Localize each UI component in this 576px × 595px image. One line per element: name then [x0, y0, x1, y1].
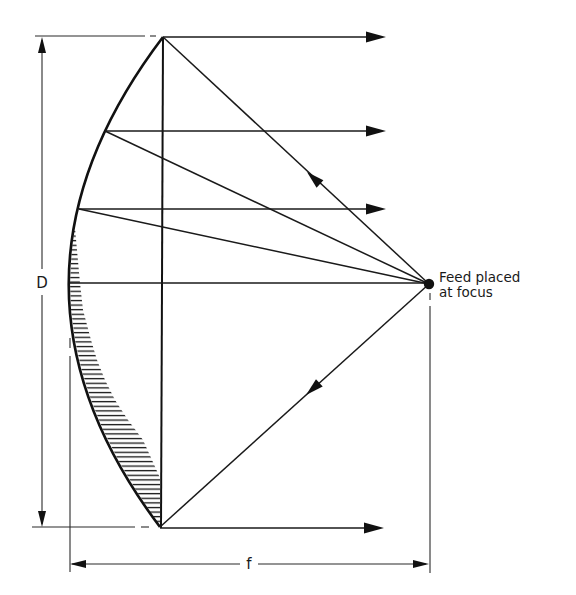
feed-label-line2: at focus — [439, 284, 493, 300]
focal-length-label: f — [246, 555, 252, 573]
feed-dot-icon — [424, 279, 434, 289]
arrow-right-icon — [364, 523, 384, 534]
parabolic-reflector-diagram: D f Feed placed at focus — [0, 0, 576, 595]
arrow-up-icon — [38, 37, 46, 53]
arrow-right-icon — [366, 204, 386, 215]
arrow-right-icon — [366, 126, 386, 137]
arrow-left-icon — [70, 560, 86, 568]
arrow-down-icon — [38, 511, 46, 527]
arrow-right-icon — [366, 32, 386, 43]
ray-arrow-up-left-icon — [307, 172, 323, 188]
feed-label-line1: Feed placed — [439, 269, 520, 285]
aperture-label: D — [36, 274, 48, 292]
arrow-right-icon — [413, 560, 429, 568]
